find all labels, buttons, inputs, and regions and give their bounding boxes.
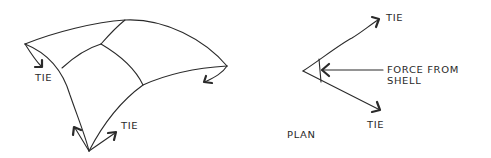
tie-label-left: TIE — [35, 73, 52, 83]
tie-arrow-bottom-right — [89, 133, 115, 151]
plan-tie-lower-line — [303, 71, 380, 110]
plan-strut — [319, 59, 321, 82]
tie-arrow-right — [205, 66, 227, 82]
plan-view — [303, 17, 383, 112]
tie-label-plan-lower: TIE — [367, 120, 384, 130]
force-label-line1: FORCE FROM — [387, 65, 459, 75]
force-label-line2: SHELL — [387, 76, 421, 86]
shell-top-edge — [25, 20, 227, 66]
shell-right-edge — [89, 66, 227, 151]
tie-arrow-bottom-up — [75, 128, 89, 151]
shell-rib-right — [101, 44, 143, 85]
arrowhead-bottom-right — [108, 132, 116, 140]
tie-label-bottom: TIE — [121, 121, 138, 131]
plan-title: PLAN — [287, 130, 316, 140]
tie-label-plan-upper: TIE — [386, 13, 403, 23]
shell-rib-top — [101, 20, 125, 44]
plan-tie-upper-line — [303, 20, 378, 71]
shell-rib-left — [62, 44, 101, 68]
shell-perspective — [25, 20, 227, 151]
